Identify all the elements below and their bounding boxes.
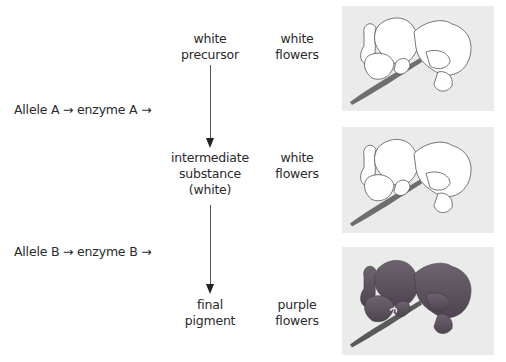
label-line: white: [262, 150, 332, 166]
label-line: precursor: [170, 47, 250, 63]
phenotype-1-label: white flowers: [262, 31, 332, 63]
step-precursor-label: white precursor: [170, 31, 250, 63]
purple-flower-icon: [342, 247, 494, 355]
flower-panel-white-2: [342, 127, 494, 233]
reaction-allele-a: Allele A → enzyme A →: [14, 102, 152, 118]
label-line: intermediate: [160, 150, 260, 166]
step-final-label: final pigment: [170, 297, 250, 329]
label-line: final: [170, 297, 250, 313]
flower-panel-white-1: [342, 6, 494, 111]
reaction-allele-b: Allele B → enzyme B →: [14, 244, 152, 260]
label-line: purple: [262, 297, 332, 313]
phenotype-2-label: white flowers: [262, 150, 332, 182]
label-line: pigment: [170, 313, 250, 329]
phenotype-3-label: purple flowers: [262, 297, 332, 329]
white-flower-icon: [342, 6, 494, 111]
label-line: (white): [160, 182, 260, 198]
arrow-1-head-icon: [206, 138, 214, 148]
arrow-2-head-icon: [206, 284, 214, 294]
label-line: flowers: [262, 47, 332, 63]
arrow-2-shaft: [210, 205, 211, 285]
arrow-1-shaft: [210, 65, 211, 139]
label-line: flowers: [262, 313, 332, 329]
label-line: flowers: [262, 166, 332, 182]
label-line: white: [262, 31, 332, 47]
label-line: white: [170, 31, 250, 47]
step-intermediate-label: intermediate substance (white): [160, 150, 260, 198]
label-line: substance: [160, 166, 260, 182]
flower-panel-purple: [342, 247, 494, 355]
white-flower-icon: [342, 127, 494, 233]
